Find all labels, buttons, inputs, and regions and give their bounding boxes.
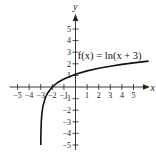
function-label: f(x) = ln(x + 3) <box>78 50 142 62</box>
function-curve <box>41 61 149 145</box>
x-tick-label: 3 <box>108 91 112 100</box>
x-tick-label: −5 <box>13 91 22 100</box>
x-tick-label: 4 <box>120 91 124 100</box>
x-tick-label: 5 <box>132 91 136 100</box>
x-tick-label: −2 <box>48 91 57 100</box>
y-tick-label: −1 <box>62 94 71 103</box>
y-tick-label: −5 <box>62 141 71 150</box>
x-tick-label: 2 <box>97 91 101 100</box>
function-graph: x y −5−4−3−2−112345 −5−4−3−2−112345 f(x)… <box>0 0 156 155</box>
y-tick-label: 4 <box>67 36 71 45</box>
y-tick-label: −3 <box>62 118 71 127</box>
x-axis-arrow-icon <box>143 84 150 90</box>
y-tick-label: −4 <box>62 129 71 138</box>
x-tick-label: 1 <box>85 91 89 100</box>
y-axis-label: y <box>72 1 78 12</box>
y-axis-arrow-icon <box>73 14 79 21</box>
y-tick-label: 5 <box>67 25 71 34</box>
y-tick-label: −2 <box>62 106 71 115</box>
y-tick-label: 3 <box>67 48 71 57</box>
x-tick-label: −3 <box>36 91 45 100</box>
x-tick-label: −4 <box>25 91 34 100</box>
x-axis-label: x <box>150 82 156 93</box>
x-axis-ticks: −5−4−3−2−112345 <box>13 84 135 100</box>
y-tick-label: 2 <box>67 60 71 69</box>
